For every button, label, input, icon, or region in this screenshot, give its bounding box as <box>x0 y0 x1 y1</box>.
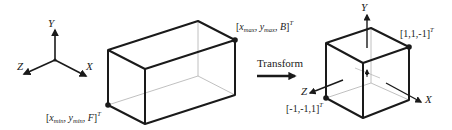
cube-y-axis-label: Y <box>361 1 369 13</box>
cube-z-axis-label: Z <box>301 85 308 97</box>
axes-origin <box>53 58 56 61</box>
x-axis-arrow <box>55 60 86 76</box>
x-axis-label: X <box>85 60 94 72</box>
normalized-cube: Y Z X [1,1,-1]T [-1,-1,1]T <box>286 1 434 118</box>
hidden-edge <box>198 76 235 95</box>
y-axis-label: Y <box>48 17 56 29</box>
min-corner-label: [xmin, ymin, F]T <box>46 110 101 124</box>
z-axis-arrow <box>24 60 55 74</box>
min-corner-dot <box>105 102 111 108</box>
max-corner-label: [xmax, ymax, B]T <box>236 19 293 33</box>
hidden-edge <box>108 76 198 105</box>
cube-x-axis-arrow <box>386 83 421 102</box>
bounding-box: [xmax, ymax, B]T [xmin, ymin, F]T <box>46 19 293 124</box>
cube-max-corner-label: [1,1,-1]T <box>400 26 434 39</box>
z-axis-label: Z <box>17 60 24 72</box>
max-corner-dot <box>232 37 238 43</box>
left-axes: Y Z X <box>17 17 94 76</box>
cube-x-axis-label: X <box>424 93 433 105</box>
hidden-edge <box>326 83 371 98</box>
box-visible-edges <box>108 21 235 124</box>
transform-label: Transform <box>257 57 303 69</box>
cube-min-corner-label: [-1,-1,1]T <box>286 101 323 114</box>
transform-step: Transform <box>257 57 303 76</box>
cube-center-dot <box>366 73 369 76</box>
min-corner-dot <box>323 95 329 101</box>
max-corner-dot <box>406 44 412 50</box>
box-normalization-diagram: Y Z X [xmax, ymax, B]T [xmin, ymin, F]T … <box>0 0 452 130</box>
